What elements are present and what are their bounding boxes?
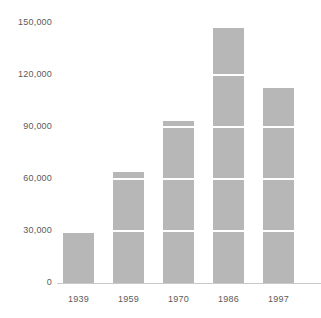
gridline-30000 <box>57 230 321 232</box>
y-tick-label-90000: 90,000 <box>0 122 52 131</box>
x-tick-label-1959: 1959 <box>113 294 144 304</box>
y-tick-label-150000: 150,000 <box>0 18 52 27</box>
bar-1986 <box>213 28 244 283</box>
bar-1939 <box>63 233 94 283</box>
x-tick-label-1970: 1970 <box>163 294 194 304</box>
gridline-90000 <box>57 126 321 128</box>
gridline-120000 <box>57 74 321 76</box>
bar-chart: 150,000 120,000 90,000 60,000 30,000 0 <box>0 0 321 318</box>
y-tick-label-120000: 120,000 <box>0 70 52 79</box>
y-tick-label-30000: 30,000 <box>0 226 52 235</box>
bar-1959 <box>113 172 144 283</box>
y-tick-label-0: 0 <box>0 278 52 287</box>
x-tick-label-1997: 1997 <box>263 294 294 304</box>
x-tick-label-1939: 1939 <box>63 294 94 304</box>
bar-1997 <box>263 88 294 283</box>
gridline-60000 <box>57 178 321 180</box>
plot-area: 1939 1959 1970 1986 1997 <box>57 0 321 318</box>
x-axis-line <box>57 283 321 284</box>
x-tick-label-1986: 1986 <box>213 294 244 304</box>
y-axis: 150,000 120,000 90,000 60,000 30,000 0 <box>0 0 52 318</box>
bar-1970 <box>163 121 194 283</box>
y-tick-label-60000: 60,000 <box>0 174 52 183</box>
